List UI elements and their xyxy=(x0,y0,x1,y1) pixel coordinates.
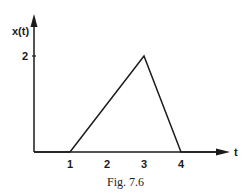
y-axis-arrow-icon xyxy=(31,14,38,27)
x-axis-arrow-icon xyxy=(216,149,230,156)
x-tick-label-2: 2 xyxy=(104,158,110,170)
figure-caption: Fig. 7.6 xyxy=(107,175,144,189)
x-tick-label-3: 3 xyxy=(141,158,147,170)
signal-line xyxy=(34,56,218,152)
y-axis-label: x(t) xyxy=(12,25,29,37)
chart: x(t) t 2 1 2 3 4 Fig. 7.6 xyxy=(0,0,248,195)
y-tick-label-2: 2 xyxy=(22,50,28,62)
x-tick-label-4: 4 xyxy=(178,158,185,170)
x-axis-label: t xyxy=(234,146,238,158)
x-tick-label-1: 1 xyxy=(67,158,73,170)
